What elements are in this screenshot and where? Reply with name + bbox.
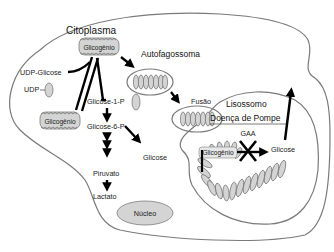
glucose-1p-vesicle xyxy=(132,94,140,110)
glucose-1p-label: Glicose-1-P xyxy=(87,97,125,106)
nucleus-label: Núcleo xyxy=(134,209,156,218)
glycogen-granule-top: Glicogênio xyxy=(79,38,119,55)
glucose-lysosome-label: Glicose xyxy=(271,145,295,154)
autophagosome-label: Autofagossoma xyxy=(141,49,200,59)
pompe-diagram: Núcleo Citoplasma Autofagossoma Lisossom… xyxy=(0,0,334,252)
lysosome-label: Lisossomo xyxy=(226,99,267,109)
glycogen-left-label: Glicogênio xyxy=(44,118,75,126)
autophagosome xyxy=(127,69,173,95)
glucose-6p-label: Glicose-6-P xyxy=(87,122,125,131)
udp-vesicle xyxy=(45,83,53,97)
pompe-disease-label: Doença de Pompe xyxy=(210,113,281,123)
glycogen-lysosome-label: Glicogênio xyxy=(202,149,233,157)
glucose-cyto-label: Glicose xyxy=(143,153,167,162)
autophagosome-to-fusion-arrow xyxy=(171,92,177,100)
fusion-label: Fusão xyxy=(191,97,211,106)
gaa-label: GAA xyxy=(240,129,255,138)
glucose-export-arrow xyxy=(285,92,291,140)
pyruvate-label: Piruvato xyxy=(93,169,119,178)
g6p-to-glucose-arrow xyxy=(125,126,138,140)
glycogen-to-autophagosome-arrow xyxy=(121,57,131,65)
udp-glucose-label: UDP-Glicose xyxy=(20,68,62,77)
glycogen-granule-left: Glicogênio xyxy=(40,112,80,129)
glycogen-top-label: Glicogênio xyxy=(83,44,114,52)
udp-label: UDP xyxy=(24,85,39,94)
lactate-label: Lactato xyxy=(93,192,117,201)
cytoplasm-label: Citoplasma xyxy=(66,25,116,36)
